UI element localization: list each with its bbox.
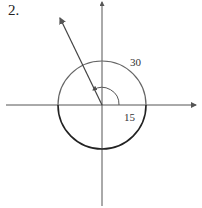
- inner-radius-label: 15: [124, 111, 136, 123]
- angle-arc: [93, 87, 119, 105]
- outer-radius-label: 30: [130, 56, 142, 68]
- angle-diagram: 30 15: [0, 0, 202, 208]
